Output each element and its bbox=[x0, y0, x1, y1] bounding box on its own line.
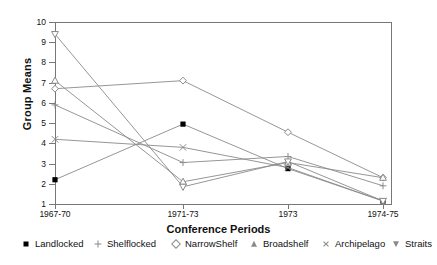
legend-item-narrowshelf: NarrowShelf bbox=[170, 238, 237, 250]
chart-figure: Group Means 12345678910 1967-701971-7319… bbox=[0, 0, 437, 265]
legend-item-broadshelf: Broadshelf bbox=[248, 238, 308, 250]
series-line bbox=[55, 81, 383, 182]
series-narrowshelf bbox=[52, 77, 387, 181]
legend-glyph bbox=[24, 242, 29, 247]
legend-glyph bbox=[393, 241, 399, 247]
legend-item-landlocked: Landlocked bbox=[20, 238, 84, 250]
series-broadshelf bbox=[52, 77, 387, 184]
legend-glyph bbox=[171, 239, 181, 249]
legend-item-shelflocked: Shelflocked bbox=[92, 238, 156, 250]
legend-item-archipelago: Archipelago bbox=[320, 238, 385, 250]
legend-label: Broadshelf bbox=[263, 239, 308, 249]
diamond-icon bbox=[170, 238, 182, 250]
series-line bbox=[55, 81, 383, 178]
legend-label: Landlocked bbox=[35, 239, 84, 249]
x-axis-title: Conference Periods bbox=[0, 223, 437, 235]
series-line bbox=[55, 105, 383, 186]
legend-glyph bbox=[323, 241, 330, 248]
legend-label: Shelflocked bbox=[107, 239, 156, 249]
legend-glyph bbox=[95, 241, 102, 248]
chart-legend: LandlockedShelflockedNarrowShelfBroadshe… bbox=[20, 236, 420, 252]
filled-square-icon bbox=[20, 238, 32, 250]
series-line bbox=[55, 124, 383, 201]
legend-glyph bbox=[251, 241, 257, 247]
series-shelflocked bbox=[52, 102, 387, 190]
series-line bbox=[55, 34, 383, 201]
legend-label: Archipelago bbox=[335, 239, 385, 249]
triangle-down-icon bbox=[390, 238, 402, 250]
legend-label: NarrowShelf bbox=[185, 239, 237, 249]
triangle-up-icon bbox=[248, 238, 260, 250]
legend-item-straits: Straits bbox=[390, 238, 432, 250]
series-landlocked bbox=[52, 122, 385, 204]
x-cross-icon bbox=[320, 238, 332, 250]
legend-label: Straits bbox=[405, 239, 432, 249]
plus-icon bbox=[92, 238, 104, 250]
